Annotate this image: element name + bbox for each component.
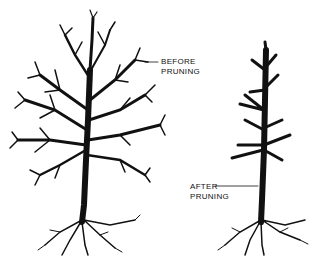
- pruning-diagram: BEFORE PRUNING AFTER PRUNING: [0, 0, 323, 264]
- before-pruning-label: BEFORE PRUNING: [161, 57, 200, 77]
- after-pruning-label: AFTER PRUNING: [190, 182, 229, 202]
- before-label-line1: BEFORE: [161, 57, 200, 67]
- after-label-line2: PRUNING: [190, 192, 229, 202]
- tree-illustrations: [0, 0, 323, 264]
- tree-after-pruning: [215, 42, 308, 255]
- before-label-line2: PRUNING: [161, 67, 200, 77]
- tree-before-pruning: [10, 10, 165, 255]
- after-label-line1: AFTER: [190, 182, 229, 192]
